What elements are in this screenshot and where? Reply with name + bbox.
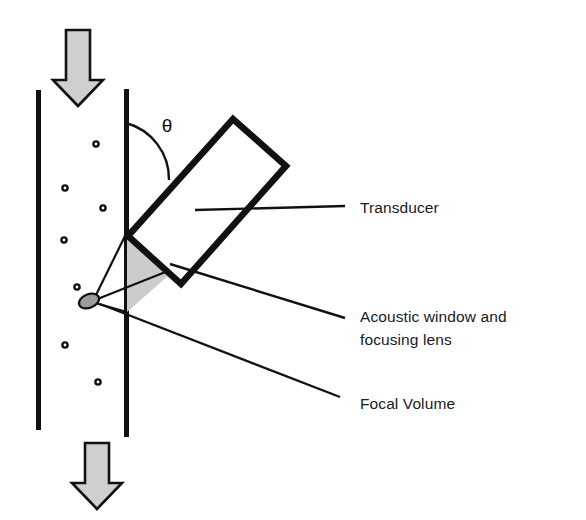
ultrasound-transducer-diagram: θ Transducer Acoustic window and focusin… [0, 0, 586, 520]
particle-dot [95, 379, 100, 384]
particle-dot [100, 205, 105, 210]
particle-dot [62, 185, 67, 190]
callout-labels: Transducer Acoustic window and focusing … [360, 199, 507, 412]
label-acoustic-window-line2: focusing lens [360, 331, 452, 348]
label-focal-volume: Focal Volume [360, 395, 455, 412]
particle-dot [93, 141, 98, 146]
flow-arrow-bottom-icon [72, 443, 122, 509]
leader-line-focal-volume [100, 304, 340, 397]
particle-dot [61, 237, 66, 242]
transducer-body [128, 119, 286, 284]
flow-arrows [53, 30, 122, 509]
flow-channel-walls [36, 89, 129, 437]
flow-arrow-top-icon [53, 30, 103, 106]
label-acoustic-window-line1: Acoustic window and [360, 308, 507, 325]
particle-dot [74, 284, 79, 289]
diagram-canvas: θ Transducer Acoustic window and focusin… [0, 0, 586, 520]
label-transducer: Transducer [360, 199, 439, 216]
particle-dot [62, 342, 67, 347]
leader-line-acoustic-window [170, 264, 345, 318]
angle-theta-label: θ [162, 115, 173, 136]
suspended-particles [61, 141, 105, 384]
left-channel-wall [36, 90, 41, 430]
beam-edge-upper [95, 232, 127, 297]
